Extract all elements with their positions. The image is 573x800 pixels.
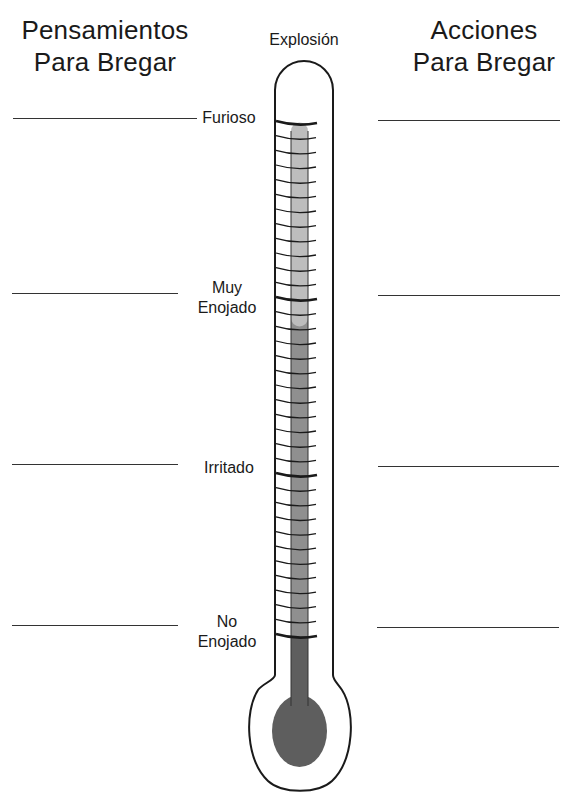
column-fill-dark bbox=[291, 636, 308, 706]
anger-thermometer bbox=[0, 0, 573, 800]
